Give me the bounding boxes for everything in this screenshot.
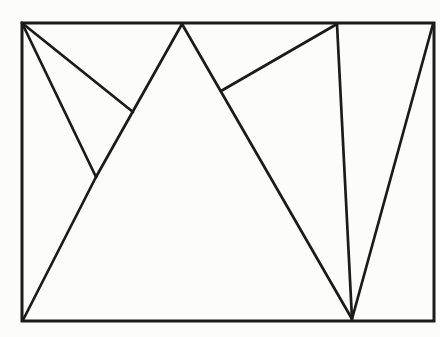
page-background <box>0 0 440 337</box>
figure-background <box>0 0 440 337</box>
geometric-figure <box>0 0 440 337</box>
